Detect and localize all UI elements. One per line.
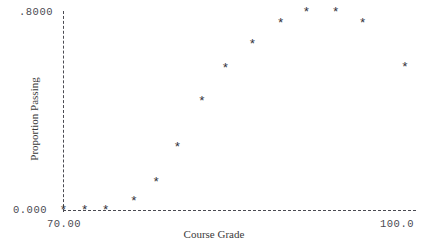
data-point-marker: *	[399, 62, 410, 73]
x-axis-title: Course Grade	[0, 228, 428, 240]
data-point-marker: *	[128, 196, 139, 207]
data-point-marker: *	[247, 39, 258, 50]
y-axis-tick-label-min: 0.000	[13, 204, 47, 216]
x-axis-line	[63, 210, 416, 211]
data-point-marker: *	[357, 18, 368, 29]
data-point-marker: *	[275, 18, 286, 29]
y-axis-title: Proportion Passing	[28, 64, 40, 174]
data-point-marker: *	[330, 7, 341, 18]
data-point-marker: *	[196, 96, 207, 107]
data-point-marker: *	[220, 63, 231, 74]
y-axis-tick-label-max: .8000	[19, 6, 53, 18]
scatter-chart: .8000 0.000 70.00 100.0 Proportion Passi…	[0, 0, 428, 247]
data-point-marker: *	[301, 7, 312, 18]
data-point-marker: *	[151, 177, 162, 188]
data-point-marker: *	[172, 142, 183, 153]
y-axis-line	[63, 11, 64, 212]
